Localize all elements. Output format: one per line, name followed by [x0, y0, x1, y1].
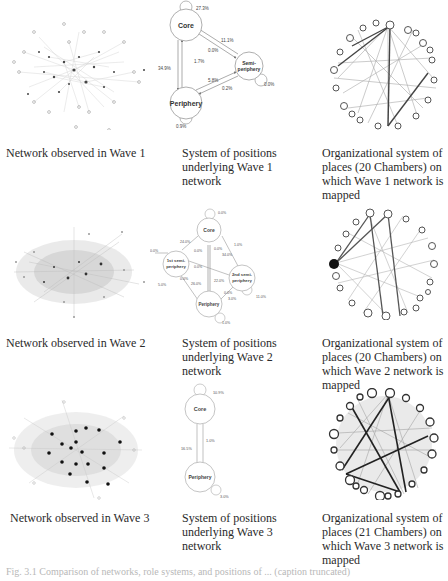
wave3-chambers-circle-graph	[328, 388, 440, 500]
svg-text:Periphery: Periphery	[170, 100, 202, 108]
caption-wave3-network: Network observed in Wave 3	[10, 511, 150, 525]
svg-text:periphery: periphery	[232, 278, 252, 283]
edge-label: 1.0%	[222, 321, 231, 325]
edge-label: 10.9%	[213, 391, 224, 395]
wave1-network-graph	[4, 12, 146, 130]
edge-label: 5.8%	[208, 78, 218, 83]
wave1-positions-diagram: Core Semi- periphery Periphery 27.3% 11.…	[156, 0, 288, 132]
svg-text:periphery: periphery	[238, 66, 261, 72]
edge-label: 27.3%	[196, 6, 209, 11]
edge-label: 0.0%	[180, 277, 189, 281]
edge-label: 0.0%	[218, 211, 227, 215]
node-first-semi-periphery: 1st semi- periphery	[163, 251, 189, 277]
edge-label: 3.0%	[220, 495, 229, 499]
wave2-positions-diagram: Core 1st semi- periphery 2nd semi- perip…	[150, 208, 290, 328]
network-scatter-icon	[4, 12, 146, 130]
caption-wave3-places: Organizational system of places (21 Cham…	[322, 511, 444, 567]
edge-label: 0.0%	[208, 48, 218, 53]
edge-label: 16.5%	[181, 447, 192, 451]
edge-label: 26.0%	[191, 282, 202, 286]
edge-label: 11.0%	[256, 295, 267, 299]
edge-label: 0.9%	[176, 124, 186, 129]
node-core: Core	[185, 394, 215, 424]
caption-wave1-network: Network observed in Wave 1	[6, 146, 146, 160]
caption-wave2-positions: System of positions underlying Wave 2 ne…	[182, 336, 307, 378]
edge-label: 0.0%	[194, 249, 203, 253]
svg-text:Core: Core	[203, 227, 215, 233]
caption-wave1-places: Organizational system of places (20 Cham…	[322, 146, 444, 202]
figure-caption-truncated: Fig. 3.1 Comparison of networks, role sy…	[6, 566, 442, 577]
svg-text:Core: Core	[194, 406, 207, 412]
node-periphery: Periphery	[196, 291, 222, 317]
node-second-semi-periphery: 2nd semi- periphery	[229, 265, 255, 291]
edge-label: 0.0%	[264, 82, 274, 87]
node-core: Core	[197, 218, 221, 242]
svg-text:Periphery: Periphery	[188, 474, 211, 480]
network-scatter-icon	[4, 222, 146, 322]
svg-text:Core: Core	[178, 22, 194, 29]
edge-label: 1.7%	[194, 59, 204, 64]
svg-text:periphery: periphery	[166, 264, 186, 269]
edge-label: 3.0%	[228, 297, 237, 301]
edge-label: 5.0%	[158, 283, 167, 287]
wave2-chambers-circle-graph	[328, 208, 440, 320]
caption-wave2-network: Network observed in Wave 2	[6, 336, 146, 350]
edge-label: 34.0%	[222, 253, 233, 257]
edge-label: 34.9%	[158, 66, 171, 71]
edge-label: 0.0%	[150, 249, 159, 253]
network-scatter-icon	[4, 398, 146, 503]
wave1-chambers-circle-graph	[328, 18, 440, 130]
wave2-network-graph	[4, 222, 146, 322]
node-periphery: Periphery	[185, 462, 215, 492]
edge-label: 1.0%	[206, 439, 215, 443]
edge-label: 0.2%	[222, 86, 232, 91]
edge-label: 1.0%	[234, 243, 243, 247]
edge-label: 0.0%	[214, 247, 223, 251]
caption-wave3-positions: System of positions underlying Wave 3 ne…	[182, 511, 307, 553]
node-semi-periphery: Semi- periphery	[235, 52, 263, 80]
edge-label: 11.1%	[221, 38, 233, 43]
caption-wave2-places: Organizational system of places (20 Cham…	[322, 336, 444, 392]
edge-label: 24.0%	[180, 240, 191, 244]
svg-text:2nd semi-: 2nd semi-	[232, 272, 253, 277]
edge-label: 0.0%	[224, 291, 233, 295]
node-core: Core	[170, 9, 202, 41]
svg-text:1st semi-: 1st semi-	[167, 258, 186, 263]
wave3-positions-diagram: Core Periphery 10.9% 1.0% 16.5% 3.0%	[178, 382, 258, 500]
caption-wave1-positions: System of positions underlying Wave 1 ne…	[182, 146, 307, 188]
svg-text:Periphery: Periphery	[199, 302, 220, 307]
node-periphery: Periphery	[170, 87, 202, 119]
wave3-network-graph	[4, 398, 146, 503]
edge-label: 0.0%	[194, 265, 203, 269]
edge-label: 22.0%	[214, 279, 225, 283]
